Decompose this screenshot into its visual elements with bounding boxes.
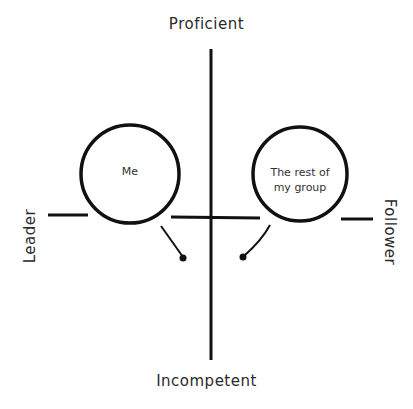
me-pin-dot bbox=[180, 255, 187, 262]
rest-label-line1: The rest of bbox=[255, 165, 345, 180]
rest-pin-dot bbox=[240, 254, 247, 261]
rest-pin-line bbox=[244, 225, 270, 256]
axis-label-incompetent: Incompetent bbox=[0, 372, 413, 390]
me-label: Me bbox=[100, 164, 160, 179]
axis-label-proficient: Proficient bbox=[0, 15, 413, 33]
rest-label-line2: my group bbox=[255, 180, 345, 195]
axis-label-leader: Leader bbox=[21, 209, 39, 263]
diagram-canvas bbox=[0, 0, 413, 409]
rest-label: The rest of my group bbox=[255, 165, 345, 195]
horizontal-axis-middle bbox=[171, 217, 260, 218]
me-pin-line bbox=[161, 226, 183, 257]
axis-label-follower: Follower bbox=[381, 199, 399, 265]
